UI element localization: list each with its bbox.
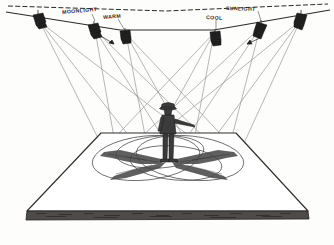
- fixture-moonlight[interactable]: [88, 23, 102, 39]
- batten-layer: [0, 0, 334, 245]
- fixture-sunlight[interactable]: [253, 22, 267, 39]
- fixture-warm[interactable]: [120, 30, 131, 44]
- fixture-far-left[interactable]: [33, 13, 47, 29]
- batten-upper: [8, 4, 328, 11]
- batten-lower: [6, 10, 330, 30]
- warm-label: WARM: [103, 13, 121, 20]
- cool-label: COOL: [206, 14, 223, 21]
- fixture-cool[interactable]: [210, 31, 221, 46]
- stage-lighting-diagram: MOONLIGHT WARM COOL SUNLIGHT: [0, 0, 334, 245]
- sunlight-label: SUNLIGHT: [226, 5, 256, 12]
- fixture-far-right[interactable]: [294, 13, 307, 30]
